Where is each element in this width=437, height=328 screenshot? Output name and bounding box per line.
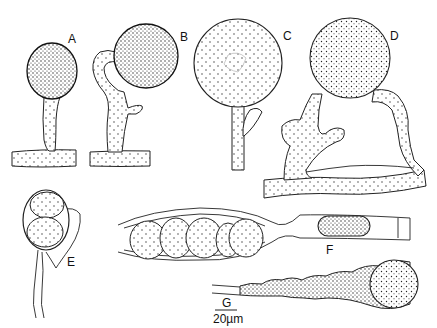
panel-a-sporangium [27, 43, 77, 99]
panel-f-spore-5 [229, 219, 263, 257]
panel-b-hypha [90, 151, 150, 167]
panel-c-label: C [283, 29, 292, 43]
panel-d-branches [282, 94, 345, 180]
panel-b-label: B [180, 30, 188, 44]
panel-e-stalk [33, 250, 44, 318]
panel-g-hypha [212, 285, 240, 295]
panel-d: D [264, 18, 426, 198]
panel-d-label: D [390, 29, 399, 43]
panel-a-label: A [68, 32, 76, 46]
panel-b-sporangium [114, 24, 178, 88]
panel-d-loop [306, 165, 414, 172]
panel-c-branch [243, 108, 262, 136]
illustration-plate: A B C D E [0, 0, 437, 328]
panel-e: E [23, 190, 80, 318]
scale-bar-label: 20µm [213, 312, 243, 326]
panel-a: A [12, 32, 77, 167]
panel-f: F [118, 208, 410, 260]
panel-e-spore-bottom [27, 217, 63, 247]
panel-f-label: F [326, 243, 333, 257]
panel-c-sporangium [194, 19, 282, 107]
panel-c-stalk [232, 100, 244, 170]
panel-g: G [212, 260, 418, 310]
scale-bar: 20µm [213, 310, 243, 326]
panel-a-stalk [43, 97, 60, 151]
panel-d-right-branch [372, 90, 424, 176]
panel-g-terminal-spore [370, 260, 418, 308]
panel-f-spore-oblong [318, 216, 370, 236]
panel-e-label: E [67, 255, 75, 269]
panel-b: B [90, 24, 188, 167]
panel-a-hypha [12, 150, 76, 167]
panel-e-spore-top [30, 192, 64, 218]
panel-g-label: G [222, 296, 231, 310]
panel-c: C [194, 19, 292, 170]
panel-d-sporangium [310, 18, 390, 98]
